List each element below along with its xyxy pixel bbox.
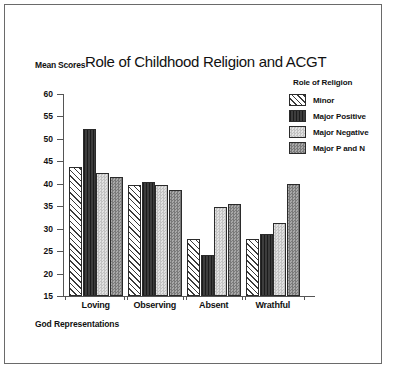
y-tick-label: 45 <box>33 156 53 166</box>
legend-swatch-icon <box>289 126 306 138</box>
x-axis-caption: God Representations <box>35 319 119 329</box>
legend-label: Major Positive <box>313 112 366 121</box>
legend-item-major-negative: Major Negative <box>289 126 369 138</box>
legend-swatch-icon <box>289 110 306 122</box>
chart-title: Role of Childhood Religion and ACGT <box>85 53 326 70</box>
bar-observing-major-positive <box>142 182 155 296</box>
x-category-label: Observing <box>133 300 176 310</box>
bar-wrathful-minor <box>246 239 259 296</box>
y-tick-label: 30 <box>33 224 53 234</box>
y-axis-caption: Mean Scores <box>35 60 85 70</box>
bar-loving-major-positive <box>83 129 96 296</box>
bar-absent-major-positive <box>201 255 214 296</box>
legend-item-major-positive: Major Positive <box>289 110 366 122</box>
y-tick-label: 40 <box>33 179 53 189</box>
legend-item-major-p-and-n: Major P and N <box>289 142 365 154</box>
x-tick <box>65 296 66 300</box>
y-tick-label: 20 <box>33 269 53 279</box>
bar-observing-major-negative <box>155 185 168 296</box>
x-tick <box>127 296 128 300</box>
y-tick-label: 15 <box>33 291 53 301</box>
bar-loving-major-p-and-n <box>110 177 123 296</box>
bar-loving-major-negative <box>96 173 109 296</box>
bar-wrathful-major-positive <box>260 234 273 296</box>
y-tick-label: 35 <box>33 201 53 211</box>
legend-label: Minor <box>313 96 334 105</box>
x-tick <box>245 296 246 300</box>
y-tick <box>57 296 63 297</box>
bar-wrathful-major-negative <box>273 223 286 296</box>
legend-swatch-icon <box>289 142 306 154</box>
bar-wrathful-major-p-and-n <box>287 184 300 296</box>
x-category-label: Absent <box>199 300 228 310</box>
legend-label: Major P and N <box>313 144 365 153</box>
bar-absent-major-p-and-n <box>228 204 241 296</box>
bar-observing-major-p-and-n <box>169 190 182 296</box>
bar-absent-major-negative <box>214 207 227 296</box>
legend-title: Role of Religion <box>293 78 352 87</box>
x-tick <box>186 296 187 300</box>
bar-loving-minor <box>69 167 82 296</box>
x-category-label: Wrathful <box>255 300 290 310</box>
x-axis-line <box>63 296 315 297</box>
x-tick <box>124 296 125 300</box>
x-tick <box>304 296 305 300</box>
legend-label: Major Negative <box>313 128 369 137</box>
legend-swatch-icon <box>289 94 306 106</box>
plot-area <box>63 94 253 296</box>
y-tick-label: 25 <box>33 246 53 256</box>
y-tick-label: 60 <box>33 89 53 99</box>
bar-absent-minor <box>187 239 200 296</box>
x-category-label: Loving <box>82 300 110 310</box>
legend-item-minor: Minor <box>289 94 334 106</box>
y-tick-label: 50 <box>33 134 53 144</box>
x-tick <box>183 296 184 300</box>
bar-observing-minor <box>128 185 141 296</box>
y-tick-label: 55 <box>33 111 53 121</box>
figure-frame: Mean Scores Role of Childhood Religion a… <box>4 4 382 364</box>
x-tick <box>242 296 243 300</box>
